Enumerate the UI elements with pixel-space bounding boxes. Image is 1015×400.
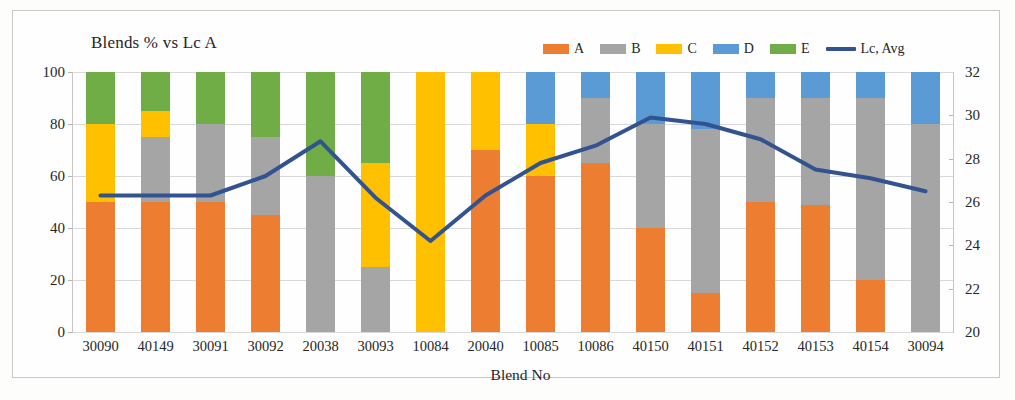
y-axis-left-tick-label: 20 — [25, 272, 65, 289]
bar-segment-a[interactable] — [801, 205, 830, 332]
bar-segment-e[interactable] — [196, 72, 225, 124]
bar-segment-b[interactable] — [801, 98, 830, 205]
bar-stack[interactable] — [196, 72, 225, 332]
bar-segment-c[interactable] — [361, 163, 390, 267]
bar-stack[interactable] — [361, 72, 390, 332]
legend-item-e[interactable]: E — [770, 41, 810, 57]
legend-swatch-b — [600, 44, 626, 54]
y-axis-left-tick-label: 60 — [25, 168, 65, 185]
bar-stack[interactable] — [746, 72, 775, 332]
legend-label-lc-avg: Lc, Avg — [861, 41, 905, 57]
bar-segment-b[interactable] — [746, 98, 775, 202]
bar-segment-b[interactable] — [691, 129, 720, 293]
bar-stack[interactable] — [416, 72, 445, 332]
legend-item-b[interactable]: B — [600, 41, 640, 57]
bar-segment-a[interactable] — [526, 176, 555, 332]
bar-segment-d[interactable] — [856, 72, 885, 98]
bar-segment-d[interactable] — [691, 72, 720, 129]
bar-segment-e[interactable] — [86, 72, 115, 124]
bar-segment-b[interactable] — [196, 124, 225, 202]
bar-segment-b[interactable] — [361, 267, 390, 332]
bar-segment-d[interactable] — [526, 72, 555, 124]
bar-segment-d[interactable] — [746, 72, 775, 98]
legend-item-c[interactable]: C — [656, 41, 696, 57]
bar-segment-c[interactable] — [86, 124, 115, 202]
bar-segment-a[interactable] — [141, 202, 170, 332]
legend-label-a: A — [574, 41, 584, 57]
bar-stack[interactable] — [471, 72, 500, 332]
bar-segment-e[interactable] — [361, 72, 390, 163]
x-axis-tick-label: 40151 — [678, 338, 733, 360]
bar-segment-a[interactable] — [196, 202, 225, 332]
y-axis-left-tick-label: 80 — [25, 116, 65, 133]
bar-segment-a[interactable] — [691, 293, 720, 332]
bar-stack[interactable] — [251, 72, 280, 332]
bar-segment-b[interactable] — [636, 124, 665, 228]
bar-segment-d[interactable] — [801, 72, 830, 98]
x-axis-tick-label: 30093 — [348, 338, 403, 360]
bar-stack[interactable] — [801, 72, 830, 332]
x-axis-title: Blend No — [13, 366, 1015, 384]
bar-segment-e[interactable] — [306, 72, 335, 176]
legend-line-lc-avg — [826, 47, 856, 51]
bar-segment-b[interactable] — [251, 137, 280, 215]
bar-segment-d[interactable] — [636, 72, 665, 124]
x-axis-tick-label: 20040 — [458, 338, 513, 360]
bar-segment-b[interactable] — [581, 98, 610, 163]
legend-item-d[interactable]: D — [713, 41, 754, 57]
bar-stack[interactable] — [86, 72, 115, 332]
y-axis-right-line — [953, 72, 954, 333]
legend-label-e: E — [801, 41, 810, 57]
x-axis-tick-label: 40149 — [128, 338, 183, 360]
bar-stack[interactable] — [856, 72, 885, 332]
y-axis-left-tick-label: 40 — [25, 220, 65, 237]
legend-label-d: D — [744, 41, 754, 57]
bar-stack[interactable] — [141, 72, 170, 332]
bar-segment-e[interactable] — [141, 72, 170, 111]
bar-segment-b[interactable] — [306, 176, 335, 332]
x-axis-tick-label: 20038 — [293, 338, 348, 360]
legend-swatch-d — [713, 44, 739, 54]
bar-segment-d[interactable] — [911, 72, 940, 124]
y-axis-left-tick-label: 100 — [25, 64, 65, 81]
y-axis-right-tick-label: 24 — [965, 237, 1005, 254]
gridline — [73, 332, 953, 333]
plot-area — [73, 72, 953, 332]
legend-swatch-e — [770, 44, 796, 54]
legend-label-b: B — [631, 41, 640, 57]
x-axis-tick-labels: 3009040149300913009220038300931008420040… — [73, 338, 953, 360]
bar-segment-c[interactable] — [416, 72, 445, 332]
x-axis-tick-label: 30094 — [898, 338, 953, 360]
bar-segment-a[interactable] — [746, 202, 775, 332]
x-axis-tick-label: 30090 — [73, 338, 128, 360]
bar-segment-a[interactable] — [251, 215, 280, 332]
bar-segment-c[interactable] — [526, 124, 555, 176]
bar-segment-a[interactable] — [636, 228, 665, 332]
legend-item-lc-avg[interactable]: Lc, Avg — [826, 41, 905, 57]
legend-item-a[interactable]: A — [543, 41, 584, 57]
y-axis-right-tick-label: 22 — [965, 280, 1005, 297]
y-axis-right-tick-label: 20 — [965, 324, 1005, 341]
bar-stack[interactable] — [911, 72, 940, 332]
bar-stack[interactable] — [636, 72, 665, 332]
y-axis-right-tick-label: 32 — [965, 64, 1005, 81]
bar-segment-b[interactable] — [856, 98, 885, 280]
bar-stack[interactable] — [691, 72, 720, 332]
bar-stack[interactable] — [526, 72, 555, 332]
y-axis-left-tick-label: 0 — [25, 324, 65, 341]
bar-segment-a[interactable] — [581, 163, 610, 332]
bar-segment-b[interactable] — [911, 124, 940, 332]
bar-stack[interactable] — [581, 72, 610, 332]
bar-segment-e[interactable] — [251, 72, 280, 137]
bar-segment-a[interactable] — [471, 150, 500, 332]
legend-label-c: C — [687, 41, 696, 57]
bar-segment-b[interactable] — [141, 137, 170, 202]
bar-segment-d[interactable] — [581, 72, 610, 98]
bar-group — [73, 72, 953, 332]
bar-segment-a[interactable] — [856, 280, 885, 332]
bar-segment-c[interactable] — [141, 111, 170, 137]
bar-segment-c[interactable] — [471, 72, 500, 150]
bar-segment-a[interactable] — [86, 202, 115, 332]
chart-legend: A B C D E Lc, Avg — [543, 41, 905, 57]
bar-stack[interactable] — [306, 72, 335, 332]
